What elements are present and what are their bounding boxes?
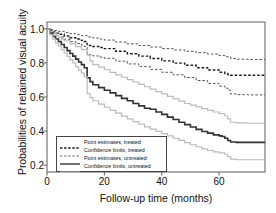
x-axis-label: Follow-up time (months)	[47, 192, 265, 204]
x-tick-label: 20	[92, 176, 116, 187]
series-curve-4	[47, 29, 265, 143]
legend-label: Point estimates, untreated	[84, 154, 147, 162]
legend-line-swatch	[59, 146, 81, 154]
x-tick-label: 40	[150, 176, 174, 187]
legend-line-swatch	[59, 154, 81, 162]
series-curve-1	[47, 29, 265, 75]
y-tick-label: 0.6	[22, 92, 44, 103]
legend-item: Point estimates, treated	[59, 138, 164, 146]
x-tick-label: 60	[207, 176, 231, 187]
legend-line-swatch	[59, 162, 81, 170]
legend-label: Point estimates, treated	[84, 138, 141, 146]
legend-label: Confidence limits, treated	[84, 146, 145, 154]
y-tick-label: 0.8	[22, 57, 44, 68]
chart-legend: Point estimates, treatedConfidence limit…	[56, 136, 167, 172]
x-tick-label: 0	[35, 176, 59, 187]
legend-label: Confidence limits, untreated	[84, 162, 151, 170]
x-axis-tick-labels: 0204060	[0, 176, 276, 190]
legend-line-swatch	[59, 138, 81, 146]
series-curve-0	[47, 29, 265, 60]
legend-item: Confidence limits, treated	[59, 146, 164, 154]
chart-figure: Probabilities of retained visual acuity …	[0, 0, 276, 213]
y-tick-label: 0.2	[22, 160, 44, 171]
legend-item: Confidence limits, untreated	[59, 162, 164, 170]
legend-item: Point estimates, untreated	[59, 154, 164, 162]
y-tick-label: 0.4	[22, 126, 44, 137]
y-tick-label: 1.0	[22, 23, 44, 34]
